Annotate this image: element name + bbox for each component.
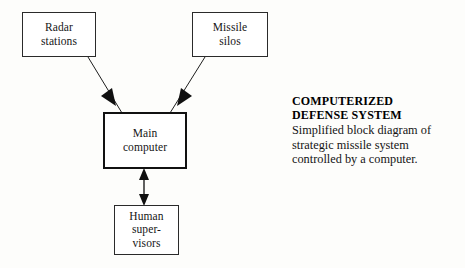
node-radar-stations-line-2: stations bbox=[41, 35, 77, 49]
caption-body-line-1: Simplified block diagram of bbox=[292, 123, 460, 138]
node-human-supervisors-line-2: super- bbox=[132, 223, 161, 237]
node-missile-silos[interactable]: Missile silos bbox=[192, 12, 268, 57]
caption-headline-line-1: COMPUTERIZED bbox=[292, 94, 460, 108]
node-main-computer-line-1: Main bbox=[133, 127, 158, 141]
node-missile-silos-line-1: Missile bbox=[213, 21, 248, 35]
node-human-supervisors-line-3: visors bbox=[132, 237, 160, 251]
figure-canvas: Radar stations Missile silos Main comput… bbox=[0, 0, 465, 268]
caption-body-line-2: strategic missile system bbox=[292, 138, 460, 153]
connector-main-to-missile bbox=[170, 57, 205, 113]
node-missile-silos-line-2: silos bbox=[219, 35, 241, 49]
node-main-computer-line-2: computer bbox=[123, 141, 167, 155]
node-radar-stations[interactable]: Radar stations bbox=[22, 12, 96, 57]
node-main-computer[interactable]: Main computer bbox=[103, 112, 187, 169]
caption-body-line-3: controlled by a computer. bbox=[292, 152, 460, 167]
connector-main-to-human bbox=[139, 168, 149, 206]
caption-block: COMPUTERIZED DEFENSE SYSTEM Simplified b… bbox=[292, 94, 460, 167]
caption-headline-line-2: DEFENSE SYSTEM bbox=[292, 108, 460, 122]
node-human-supervisors-line-1: Human bbox=[129, 210, 163, 224]
caption-headline: COMPUTERIZED DEFENSE SYSTEM bbox=[292, 94, 460, 122]
caption-body: Simplified block diagram of strategic mi… bbox=[292, 123, 460, 167]
node-radar-stations-line-1: Radar bbox=[45, 21, 73, 35]
connector-radar-to-main bbox=[88, 57, 122, 113]
node-human-supervisors[interactable]: Human super- visors bbox=[114, 205, 179, 255]
